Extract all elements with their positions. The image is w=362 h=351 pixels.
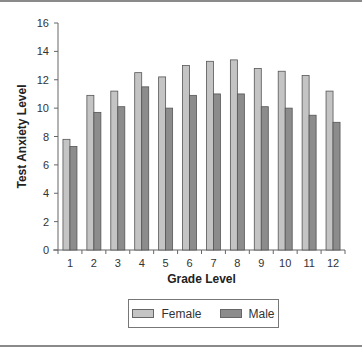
bar-male: [118, 107, 125, 250]
x-tick-label: 8: [234, 257, 240, 269]
bar-male: [190, 95, 197, 250]
bar-male: [285, 108, 292, 250]
bar-male: [333, 122, 340, 250]
bar-female: [111, 91, 118, 250]
bar-male: [237, 94, 244, 250]
y-tick-label: 12: [37, 74, 49, 86]
bar-female: [230, 60, 237, 250]
y-axis-title: Test Anxiety Level: [15, 84, 29, 188]
legend-item-female: Female: [132, 307, 201, 321]
x-tick-label: 3: [115, 257, 121, 269]
x-tick-label: 4: [139, 257, 145, 269]
legend-item-male: Male: [220, 307, 275, 321]
y-tick-label: 0: [43, 244, 49, 256]
bar-female: [326, 91, 333, 250]
bar-female: [159, 77, 166, 250]
bar-female: [63, 139, 70, 250]
bar-female: [135, 73, 142, 250]
bar-female: [183, 66, 190, 250]
x-tick-label: 6: [186, 257, 192, 269]
y-tick-label: 10: [37, 102, 49, 114]
legend-label-female: Female: [161, 307, 201, 321]
male-swatch: [220, 309, 242, 318]
x-tick-label: 12: [327, 257, 339, 269]
y-tick-label: 6: [43, 159, 49, 171]
y-tick-label: 16: [37, 17, 49, 29]
bar-male: [213, 94, 220, 250]
y-tick-label: 8: [43, 131, 49, 143]
bar-male: [309, 115, 316, 250]
bar-male: [94, 112, 101, 250]
bar-female: [278, 71, 285, 250]
bar-female: [87, 95, 94, 250]
bar-male: [142, 87, 149, 250]
x-tick-label: 1: [67, 257, 73, 269]
legend-label-male: Male: [249, 307, 275, 321]
y-tick-label: 4: [43, 187, 49, 199]
x-tick-label: 9: [258, 257, 264, 269]
bar-female: [302, 75, 309, 250]
legend: Female Male: [128, 299, 279, 328]
y-tick-label: 2: [43, 216, 49, 228]
bar-male: [166, 108, 173, 250]
bar-male: [70, 146, 77, 250]
female-swatch: [132, 309, 154, 318]
bar-female: [206, 61, 213, 250]
x-tick-label: 7: [210, 257, 216, 269]
bar-female: [254, 68, 261, 250]
bottom-rule: [0, 345, 362, 347]
y-tick-label: 14: [37, 45, 49, 57]
x-axis-title: Grade Level: [167, 272, 236, 286]
x-tick-label: 2: [91, 257, 97, 269]
x-tick-label: 5: [163, 257, 169, 269]
bar-male: [261, 107, 268, 250]
x-tick-label: 11: [303, 257, 314, 269]
x-tick-label: 10: [279, 257, 291, 269]
